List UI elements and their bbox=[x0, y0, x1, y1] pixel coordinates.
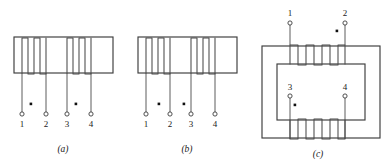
panel-a-right-winding bbox=[67, 38, 91, 74]
panel-a-right-coil bbox=[67, 38, 91, 74]
panel-c-terminal-2[interactable] bbox=[343, 21, 347, 25]
panel-a-terminal-1[interactable] bbox=[20, 112, 24, 116]
panel-c-polarity-dot-bottom bbox=[294, 104, 297, 107]
panel-a-core-rect bbox=[14, 37, 113, 73]
panel-a-terminal-label-4: 4 bbox=[89, 119, 94, 129]
panel-c-terminal-1[interactable] bbox=[288, 21, 292, 25]
panel-b-left-coil bbox=[146, 38, 170, 74]
panel-c-terminal-label-2: 2 bbox=[343, 8, 348, 18]
panel-a-terminal-2[interactable] bbox=[44, 112, 48, 116]
panel-b-core-rect bbox=[138, 37, 237, 73]
panel-a-terminal-4[interactable] bbox=[89, 112, 93, 116]
panel-c-terminal-label-1: 1 bbox=[288, 8, 293, 18]
panel-b-terminal-label-4: 4 bbox=[213, 119, 218, 129]
panel-b-terminal-label-2: 2 bbox=[168, 119, 173, 129]
panel-b-polarity-dot-right bbox=[183, 103, 186, 106]
panel-c-top-winding bbox=[290, 45, 345, 65]
panel-b-left-winding bbox=[146, 38, 170, 74]
panel-a-caption: (a) bbox=[57, 144, 68, 155]
panel-b-terminal-3[interactable] bbox=[189, 112, 193, 116]
panel-b-terminal-label-3: 3 bbox=[189, 119, 194, 129]
panel-a-polarity-dot-left bbox=[30, 103, 33, 106]
panel-b-terminal-label-1: 1 bbox=[144, 119, 149, 129]
panel-c-terminal-label-3: 3 bbox=[288, 82, 293, 92]
panel-a-left-coil bbox=[22, 38, 46, 74]
figure-root: 1 2 3 4 (a) bbox=[0, 0, 384, 165]
panel-a-terminal-3[interactable] bbox=[65, 112, 69, 116]
panel-a-terminal-label-2: 2 bbox=[44, 119, 49, 129]
panel-b-terminal-2[interactable] bbox=[168, 112, 172, 116]
panel-c-terminal-4[interactable] bbox=[343, 94, 347, 98]
panel-c-caption: (c) bbox=[313, 149, 324, 160]
panel-b-caption: (b) bbox=[181, 144, 192, 155]
panel-a: 1 2 3 4 (a) bbox=[14, 37, 113, 155]
panel-b-right-winding bbox=[191, 38, 215, 74]
panel-b: 1 2 3 4 (b) bbox=[138, 37, 237, 155]
panel-b-terminal-1[interactable] bbox=[144, 112, 148, 116]
panel-b-polarity-dot-left bbox=[158, 103, 161, 106]
panel-a-left-winding bbox=[22, 38, 46, 74]
panel-b-terminal-4[interactable] bbox=[213, 112, 217, 116]
panel-c-top-coil bbox=[290, 45, 345, 65]
panel-a-polarity-dot-right bbox=[75, 103, 78, 106]
panel-b-right-coil bbox=[191, 38, 215, 74]
panel-c-bottom-winding bbox=[290, 119, 345, 139]
panel-a-terminal-label-1: 1 bbox=[20, 119, 25, 129]
panel-a-terminal-label-3: 3 bbox=[65, 119, 70, 129]
panel-c-polarity-dot-top bbox=[336, 30, 339, 33]
coil-diagram-figure: 1 2 3 4 (a) bbox=[0, 0, 384, 165]
panel-c: 1 2 3 4 (c) bbox=[262, 8, 380, 160]
panel-c-terminal-3[interactable] bbox=[288, 94, 292, 98]
panel-c-terminal-label-4: 4 bbox=[343, 82, 348, 92]
panel-c-outer-core-rect bbox=[262, 46, 380, 138]
panel-c-bottom-coil bbox=[290, 119, 345, 139]
